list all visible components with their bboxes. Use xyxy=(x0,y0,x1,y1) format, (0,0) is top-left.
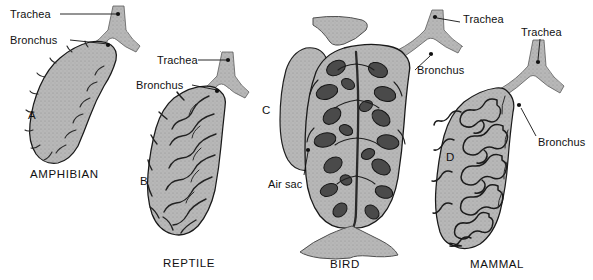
label-amphibian-trachea: Trachea xyxy=(10,9,51,20)
label-bird-air-sac: Air sac xyxy=(268,179,302,190)
label-reptile-trachea: Trachea xyxy=(157,55,198,66)
caption-mammal: MAMMAL xyxy=(470,258,524,270)
reptile-trachea-marker xyxy=(226,58,230,62)
panel-letter-a: A xyxy=(28,110,36,121)
label-mammal-bronchus: Bronchus xyxy=(538,137,585,148)
amphibian-trachea-marker xyxy=(116,12,120,16)
caption-reptile: REPTILE xyxy=(163,257,215,269)
panel-letter-d: D xyxy=(446,152,454,163)
reptile-bronchus-marker xyxy=(215,89,219,93)
amphibian-bronchus-marker xyxy=(106,43,110,47)
label-mammal-trachea: Trachea xyxy=(521,27,562,38)
vertebrate-lung-diagram xyxy=(0,0,593,280)
label-bird-trachea: Trachea xyxy=(463,14,504,25)
label-reptile-bronchus: Bronchus xyxy=(136,80,183,91)
caption-bird: BIRD xyxy=(330,258,360,270)
panel-letter-b: B xyxy=(140,176,148,187)
label-amphibian-bronchus: Bronchus xyxy=(10,35,57,46)
mammal-bronchus-marker xyxy=(517,103,521,107)
bird-bronchus-marker xyxy=(429,52,433,56)
mammal-trachea-marker xyxy=(536,60,540,64)
panel-letter-c: C xyxy=(262,105,270,116)
bird-air-sac-marker xyxy=(306,148,310,152)
label-bird-bronchus: Bronchus xyxy=(417,65,464,76)
bird-trachea-marker xyxy=(433,15,437,19)
caption-amphibian: AMPHIBIAN xyxy=(30,168,99,180)
